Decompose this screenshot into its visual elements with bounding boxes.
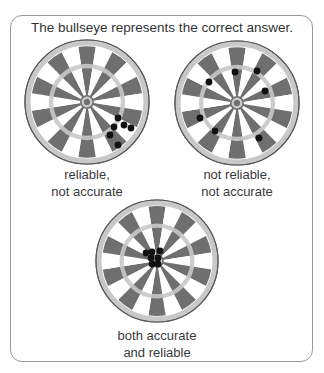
dart-hit: [256, 135, 263, 142]
caption-line: not reliable,: [170, 166, 304, 183]
caption-line: not accurate: [20, 183, 154, 200]
caption-line: reliable,: [20, 166, 154, 183]
dart-hit: [115, 142, 122, 149]
dart-hit: [143, 250, 150, 257]
caption-line: and reliable: [95, 344, 219, 361]
dart-hit: [212, 128, 219, 135]
dart-hit: [155, 261, 162, 268]
dart-hit: [254, 68, 261, 75]
caption-not-reliable-not-accurate: not reliable, not accurate: [170, 166, 304, 200]
dart-hit: [197, 115, 204, 122]
dart-hit: [149, 261, 156, 268]
dart-hit: [262, 88, 269, 95]
dart-hit: [206, 79, 213, 86]
caption-accurate-and-reliable: both accurate and reliable: [95, 327, 219, 361]
dart-hit: [157, 248, 164, 255]
dart-hit: [155, 255, 162, 262]
dart-hit: [121, 122, 128, 129]
dart-hit: [148, 255, 155, 262]
dart-hit: [232, 69, 239, 76]
dart-hit: [111, 124, 118, 131]
target-reliable-not-accurate: [25, 40, 149, 164]
target-not-reliable-not-accurate: [175, 41, 299, 165]
target-accurate-and-reliable: [96, 200, 218, 322]
caption-line: not accurate: [170, 183, 304, 200]
caption-line: both accurate: [95, 327, 219, 344]
dart-hit: [149, 249, 156, 256]
dart-hit: [128, 125, 135, 132]
dart-hit: [115, 115, 122, 122]
caption-reliable-not-accurate: reliable, not accurate: [20, 166, 154, 200]
dart-hit: [107, 132, 114, 139]
